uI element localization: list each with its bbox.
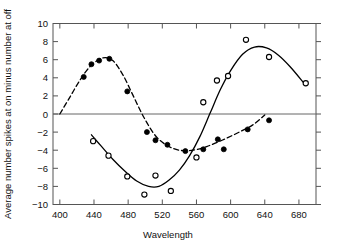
y-tick-label: −2 [37, 127, 48, 138]
data-point-filled-circles [81, 74, 86, 79]
data-markers [81, 37, 308, 197]
y-tick-label: 4 [43, 72, 48, 83]
data-point-open-circles [106, 153, 111, 158]
data-point-open-circles [266, 54, 271, 59]
y-tick-label: 2 [43, 90, 48, 101]
data-point-open-circles [153, 173, 158, 178]
data-point-open-circles [168, 188, 173, 193]
y-tick-label: −4 [37, 145, 48, 156]
data-point-open-circles [243, 37, 248, 42]
data-point-filled-circles [89, 62, 94, 67]
data-point-filled-circles [153, 138, 158, 143]
x-tick-label: 600 [223, 209, 239, 220]
x-tick-label: 520 [154, 209, 170, 220]
y-tick-label: 8 [43, 36, 48, 47]
data-point-open-circles [201, 100, 206, 105]
chart-canvas: 400440480520560600640680−10−8−6−4−202468… [0, 0, 337, 243]
y-axis-title: Average number spikes at on minus number… [2, 9, 13, 219]
y-tick-label: 0 [43, 109, 48, 120]
y-tick-label: 10 [37, 18, 48, 29]
data-point-filled-circles [215, 137, 220, 142]
x-tick-label: 680 [291, 209, 307, 220]
curve-open-circles [91, 46, 304, 187]
data-point-open-circles [125, 174, 130, 179]
x-tick-label: 480 [120, 209, 136, 220]
data-point-filled-circles [144, 130, 149, 135]
y-tick-label: −10 [32, 199, 48, 210]
data-curves [60, 46, 304, 187]
data-point-open-circles [91, 139, 96, 144]
data-point-filled-circles [125, 89, 130, 94]
x-axis-title: Wavelength [143, 229, 193, 240]
x-tick-label: 400 [52, 209, 68, 220]
data-point-open-circles [194, 155, 199, 160]
x-tick-label: 640 [257, 209, 273, 220]
data-point-open-circles [303, 81, 308, 86]
x-tick-label: 560 [189, 209, 205, 220]
data-point-filled-circles [183, 149, 188, 154]
y-tick-label: −8 [37, 181, 48, 192]
data-point-filled-circles [107, 56, 112, 61]
data-point-open-circles [142, 192, 147, 197]
x-tick-label: 440 [86, 209, 102, 220]
data-point-filled-circles [245, 127, 250, 132]
data-point-open-circles [225, 73, 230, 78]
chart-figure: 400440480520560600640680−10−8−6−4−202468… [0, 0, 337, 243]
y-tick-label: −6 [37, 163, 48, 174]
data-point-filled-circles [97, 58, 102, 63]
data-point-filled-circles [201, 147, 206, 152]
data-point-filled-circles [221, 147, 226, 152]
curve-filled-circles [60, 58, 265, 151]
data-point-filled-circles [267, 118, 272, 123]
data-point-open-circles [214, 78, 219, 83]
data-point-filled-circles [165, 142, 170, 147]
y-tick-label: 6 [43, 54, 48, 65]
